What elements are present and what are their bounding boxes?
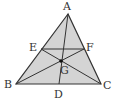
point-g-dot <box>59 59 63 63</box>
label-d: D <box>54 88 63 101</box>
label-c: C <box>103 79 111 92</box>
triangle-diagram: A B C D E F G <box>0 0 119 101</box>
label-a: A <box>62 0 72 13</box>
label-b: B <box>4 78 12 91</box>
label-f: F <box>86 41 94 54</box>
label-g: G <box>60 64 69 77</box>
label-e: E <box>29 41 37 54</box>
